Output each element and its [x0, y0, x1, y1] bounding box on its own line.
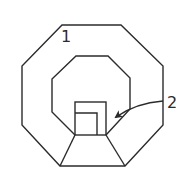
diagram-canvas: 1 2 — [0, 0, 188, 174]
diagram-svg: 1 2 — [0, 0, 188, 174]
inner-octagon — [52, 56, 130, 135]
label-2: 2 — [167, 93, 177, 112]
outer-square — [75, 102, 106, 135]
leader-arrow-2 — [116, 101, 163, 117]
inner-square — [75, 113, 97, 135]
label-1: 1 — [61, 27, 71, 46]
trapezoid-right-edge — [106, 135, 125, 166]
outer-octagon — [22, 25, 163, 166]
trapezoid-left-edge — [60, 135, 75, 166]
